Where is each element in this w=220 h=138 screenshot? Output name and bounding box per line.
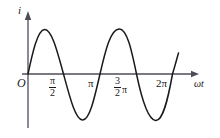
waveform-plot xyxy=(0,0,220,138)
y-axis-label: i xyxy=(18,5,21,16)
fraction-denominator: 2 xyxy=(49,88,56,99)
y-axis xyxy=(25,11,31,128)
origin-label: O xyxy=(17,77,26,89)
fraction-numerator: 3 xyxy=(114,76,121,88)
fraction-denominator: 2 xyxy=(114,88,121,99)
fraction-numerator: π xyxy=(49,76,56,88)
tick-label-half-pi: π 2 xyxy=(49,76,56,98)
x-axis-label: ωt xyxy=(194,79,204,89)
fraction-trailing-pi: π xyxy=(121,85,127,95)
tick-label-pi: π xyxy=(88,78,94,89)
tick-label-two-pi: 2π xyxy=(156,78,167,89)
fraction-half-pi: π 2 xyxy=(49,76,56,98)
x-axis-arrowhead xyxy=(191,71,199,77)
y-axis-arrowhead xyxy=(25,11,31,20)
sine-wave-figure: i O π 2 π 3 2 π 2π ωt xyxy=(0,0,220,138)
tick-label-three-half-pi: 3 2 π xyxy=(114,76,127,98)
fraction-three-halves: 3 2 xyxy=(114,76,121,98)
